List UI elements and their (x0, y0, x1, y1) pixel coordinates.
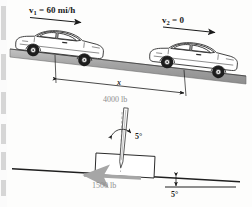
velocity-2-equals: = (172, 15, 177, 25)
velocity-1-equals: = (39, 5, 44, 15)
velocity-1-label: v1 = 60 mi/h (29, 6, 75, 17)
velocity-1-subscript: 1 (34, 9, 37, 16)
velocity-2-subscript: 2 (167, 19, 170, 26)
scan-artifact (1, 92, 6, 114)
physics-figure: v1 = 60 mi/h v2 = 0 x 4000 lb 1500 lb 5°… (0, 0, 252, 207)
scan-artifact (1, 6, 6, 40)
velocity-1-value: 60 mi/h (46, 5, 75, 15)
angle-incline-label: 5° (171, 191, 178, 199)
force-1500lb-label: 1500 lb (92, 182, 116, 190)
scan-artifact (1, 152, 6, 170)
scan-artifact (1, 124, 6, 144)
velocity-2-label: v2 = 0 (162, 16, 184, 27)
force-4000lb-label: 4000 lb (103, 96, 127, 104)
distance-x-label: x (117, 79, 121, 87)
velocity-arrow-1 (30, 18, 81, 23)
velocity-arrow-2 (163, 27, 215, 33)
velocity-2-value: 0 (179, 15, 184, 25)
block (95, 153, 155, 178)
angle-force-label: 5° (135, 133, 142, 141)
scan-artifact (1, 54, 6, 80)
scan-artifact (1, 180, 6, 196)
